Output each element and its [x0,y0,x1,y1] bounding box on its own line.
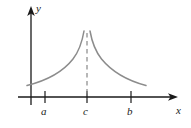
tick-label-c: c [83,106,88,117]
curve-right-branch [90,31,146,86]
tick-label-b: b [127,106,133,117]
y-axis-label: y [36,3,41,14]
graph-figure: y x a c b [0,0,191,128]
tick-label-a: a [41,106,47,117]
curve-left-branch [27,31,84,86]
graph-canvas [0,0,191,128]
x-axis-label: x [176,105,181,116]
